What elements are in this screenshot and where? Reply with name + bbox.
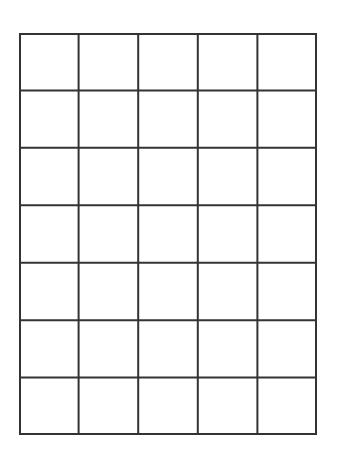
grid-cell	[19, 90, 79, 147]
grid-cell	[138, 148, 198, 205]
grid-cell	[138, 320, 198, 377]
grid-cell	[19, 33, 79, 90]
grid-cell	[79, 263, 139, 320]
grid-cell	[198, 320, 258, 377]
grid-cell	[138, 90, 198, 147]
grid-cell	[198, 148, 258, 205]
grid-cell	[79, 148, 139, 205]
grid-cell	[79, 378, 139, 435]
grid-cell	[257, 205, 317, 262]
grid-cell	[257, 33, 317, 90]
grid-cell	[257, 263, 317, 320]
grid-cell	[198, 90, 258, 147]
grid-cell	[138, 33, 198, 90]
grid-cell	[198, 205, 258, 262]
empty-grid-table	[19, 33, 317, 435]
grid-cell	[19, 205, 79, 262]
grid-cell	[198, 263, 258, 320]
grid-cell	[257, 148, 317, 205]
grid-cell	[198, 378, 258, 435]
grid-cell	[79, 205, 139, 262]
grid-cell	[79, 90, 139, 147]
grid-cell	[138, 205, 198, 262]
grid-cell	[19, 148, 79, 205]
grid-cell	[19, 263, 79, 320]
grid-cell	[138, 378, 198, 435]
grid-cell	[19, 320, 79, 377]
grid-cell	[198, 33, 258, 90]
grid-cell	[79, 33, 139, 90]
grid-cell	[257, 378, 317, 435]
grid-cell	[79, 320, 139, 377]
grid-cell	[138, 263, 198, 320]
grid-lines	[19, 33, 317, 435]
grid-cell	[257, 90, 317, 147]
grid-cell	[257, 320, 317, 377]
grid-cell	[19, 378, 79, 435]
